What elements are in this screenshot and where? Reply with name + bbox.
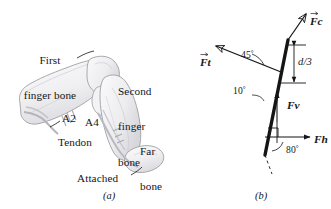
angle-80-arc bbox=[272, 142, 283, 151]
force-fc-subscript: c bbox=[318, 15, 323, 27]
force-fv-subscript: v bbox=[295, 99, 300, 111]
label-angle-10: 10° bbox=[233, 86, 246, 96]
label-force-fv: Fv bbox=[287, 95, 300, 113]
label-force-fc: Fc bbox=[310, 11, 323, 29]
ft-overbar-arrow-icon bbox=[200, 52, 209, 56]
label-force-fh: Fh bbox=[314, 129, 328, 147]
label-pulley-a4: A4 bbox=[85, 117, 99, 129]
fc-overbar-arrow-icon bbox=[310, 11, 319, 15]
label-dimension-d3: d/3 bbox=[298, 56, 312, 67]
label-pulley-a2: A2 bbox=[62, 113, 76, 125]
force-fh-subscript: h bbox=[322, 133, 328, 145]
label-attached: Attached bbox=[77, 173, 118, 185]
label-force-ft: Ft bbox=[200, 52, 211, 70]
force-ft-symbol: F bbox=[200, 56, 208, 68]
force-fv-symbol: F bbox=[287, 99, 295, 111]
caption-panel-b: (b) bbox=[255, 190, 267, 201]
label-angle-80: 80° bbox=[286, 145, 299, 155]
angle-10-leader bbox=[252, 95, 264, 101]
force-fh-symbol: F bbox=[314, 133, 322, 145]
shaft-dashed-extension bbox=[265, 155, 272, 174]
fc-vector-arrow bbox=[288, 14, 306, 40]
figure-root: First finger bone Second finger bone Far… bbox=[0, 0, 331, 209]
caption-panel-a: (a) bbox=[103, 190, 115, 201]
force-ft-subscript: t bbox=[208, 56, 211, 68]
force-fc-symbol: F bbox=[310, 15, 318, 27]
label-angle-45: 45° bbox=[241, 50, 254, 60]
label-tendon: Tendon bbox=[58, 137, 92, 149]
label-far-bone: Far bone bbox=[140, 122, 162, 209]
